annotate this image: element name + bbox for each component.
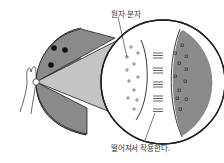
dark-dot (48, 62, 54, 68)
dark-dot (51, 45, 57, 51)
dark-dot (62, 47, 68, 53)
act-at-distance-label: 떨어져서 작용한다. (111, 142, 170, 153)
atoms-molecules-label: 원자·분자 (111, 8, 140, 19)
diagram-canvas: 원자·분자 떨어져서 작용한다. (0, 0, 224, 163)
